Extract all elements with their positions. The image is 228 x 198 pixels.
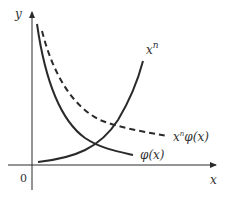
label-phi: φ(x) [140,148,165,162]
origin-label: 0 [20,172,27,185]
y-axis-label: y [14,7,22,21]
diagram-canvas: y 0 x xn xnφ(x) φ(x) [0,0,228,198]
curve-xn [38,61,143,162]
x-axis-label: x [210,173,217,187]
curve-phi [37,24,133,155]
label-xn-phi: xnφ(x) [173,130,209,144]
label-xn: xn [146,40,159,57]
